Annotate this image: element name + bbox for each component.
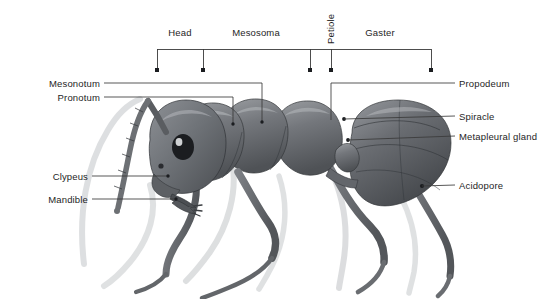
far-foreleg	[104, 185, 153, 286]
endpoint-clypeus	[166, 174, 169, 177]
gaster	[350, 100, 451, 206]
petiole-node	[335, 143, 359, 172]
ant-body-group	[82, 99, 451, 298]
endpoint-mesonotum	[260, 120, 263, 123]
endpoint-mandible	[174, 197, 177, 200]
figure-canvas: Head Mesosoma Petiole Gaster Mesonotum P…	[0, 0, 548, 299]
part-label-clypeus: Clypeus	[0, 172, 88, 182]
ocellus	[158, 163, 163, 168]
tick-cap-3	[308, 68, 312, 72]
eye-glint	[176, 138, 183, 146]
tick-cap-4	[329, 68, 333, 72]
mid-leg-tarsus	[202, 258, 272, 298]
part-label-metapleural-gland: Metapleural gland	[459, 132, 537, 142]
top-bracket-tick-caps	[155, 68, 433, 72]
endpoint-pronotum	[231, 122, 234, 125]
part-label-propodeum: Propodeum	[459, 79, 509, 89]
region-label-mesosoma: Mesosoma	[216, 28, 296, 38]
fore-leg-tarsus	[136, 274, 166, 292]
mid-leg	[238, 172, 275, 258]
part-label-acidopore: Acidopore	[459, 181, 503, 191]
region-label-head: Head	[150, 28, 210, 38]
tick-cap-5	[429, 68, 433, 72]
ant-anatomy-illustration	[0, 0, 548, 299]
region-label-petiole: Petiole	[326, 14, 336, 44]
part-label-pronotum: Pronotum	[0, 93, 100, 103]
far-hindleg-lower	[400, 195, 415, 293]
part-label-spiracle: Spiracle	[459, 112, 495, 122]
part-label-mandible: Mandible	[0, 195, 88, 205]
hind-leg-right-tarsus	[438, 276, 450, 296]
tick-cap-2	[201, 68, 205, 72]
hind-leg-left-tarsus	[358, 262, 384, 292]
tick-cap-1	[155, 68, 159, 72]
part-label-mesonotum: Mesonotum	[0, 79, 100, 89]
region-label-gaster: Gaster	[350, 28, 410, 38]
top-bracket-rail	[157, 49, 431, 69]
compound-eye	[172, 134, 194, 160]
antenna-tip	[114, 208, 120, 214]
